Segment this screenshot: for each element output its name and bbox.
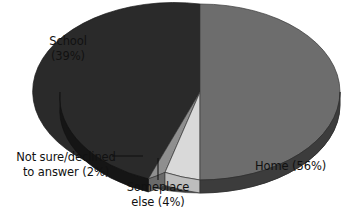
slice-label-not-sure-line1: Not sure/declined [16, 150, 116, 164]
home-slice-top [200, 4, 340, 180]
slice-label-someplace-line1: Someplace [127, 180, 190, 194]
slice-label-someplace-else: Someplace else (4%) [114, 180, 202, 209]
pie-chart: School (39%) Home (56%) Not sure/decline… [0, 0, 349, 213]
slice-label-not-sure-declined: Not sure/declined to answer (2%) [4, 150, 128, 179]
slice-label-someplace-line2: else (4%) [114, 195, 202, 210]
slice-label-home-line1: Home (56%) [255, 159, 326, 173]
slice-label-not-sure-line2: to answer (2%) [4, 165, 128, 180]
slice-label-home: Home (56%) [255, 159, 326, 174]
slice-label-school-line2: (39%) [31, 49, 105, 64]
slice-label-school-line1: School [49, 34, 87, 48]
slice-label-school: School (39%) [31, 34, 105, 63]
